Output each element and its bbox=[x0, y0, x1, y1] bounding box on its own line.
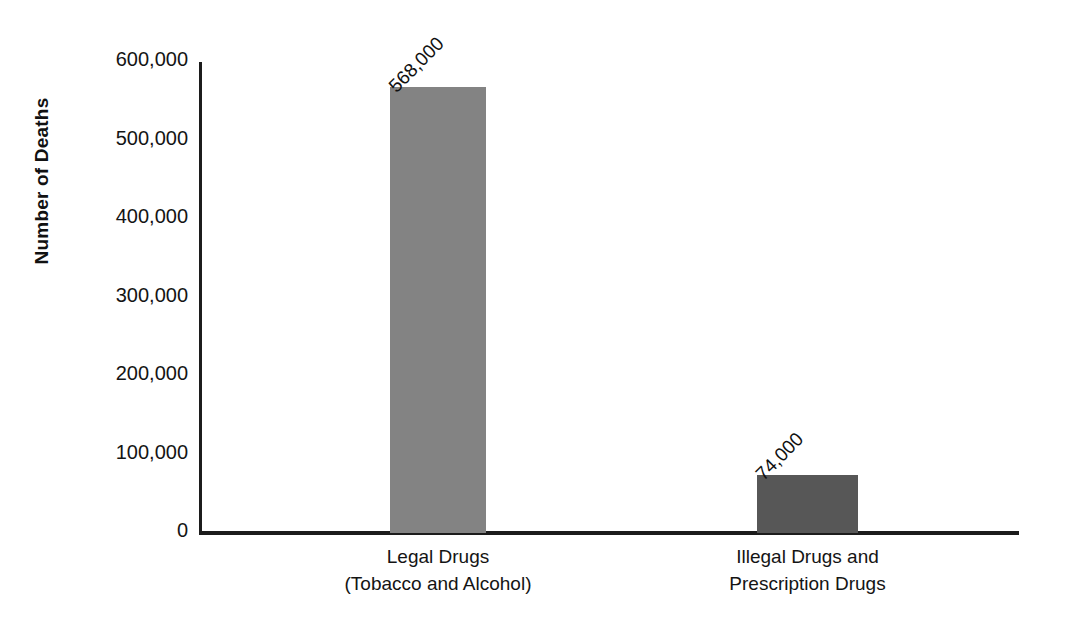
category-label-line: Legal Drugs bbox=[278, 543, 598, 570]
category-label-line: (Tobacco and Alcohol) bbox=[278, 570, 598, 597]
x-axis-category-label: Illegal Drugs andPrescription Drugs bbox=[648, 543, 968, 597]
x-axis-category-label: Legal Drugs(Tobacco and Alcohol) bbox=[278, 543, 598, 597]
x-axis-category-labels: Legal Drugs(Tobacco and Alcohol)Illegal … bbox=[202, 543, 1019, 633]
y-axis-tick-label: 600,000 bbox=[60, 48, 188, 71]
y-axis-tick-label: 100,000 bbox=[60, 441, 188, 464]
bar-rect bbox=[757, 475, 858, 533]
y-axis-tick-labels: 600,000500,000400,000300,000200,000100,0… bbox=[60, 0, 188, 644]
bar: 568,000 bbox=[390, 87, 486, 533]
bar-chart: Number of Deaths 600,000500,000400,00030… bbox=[0, 0, 1068, 644]
category-label-line: Illegal Drugs and bbox=[648, 543, 968, 570]
y-axis-title: Number of Deaths bbox=[31, 41, 53, 321]
y-axis-tick-label: 400,000 bbox=[60, 205, 188, 228]
bar-rect bbox=[390, 87, 486, 533]
y-axis-tick-label: 0 bbox=[60, 519, 188, 542]
category-label-line: Prescription Drugs bbox=[648, 570, 968, 597]
bar: 74,000 bbox=[757, 475, 858, 533]
y-axis-tick-label: 300,000 bbox=[60, 284, 188, 307]
y-axis-tick-label: 500,000 bbox=[60, 127, 188, 150]
plot-area: 568,00074,000 bbox=[202, 62, 1019, 533]
y-axis-tick-label: 200,000 bbox=[60, 362, 188, 385]
